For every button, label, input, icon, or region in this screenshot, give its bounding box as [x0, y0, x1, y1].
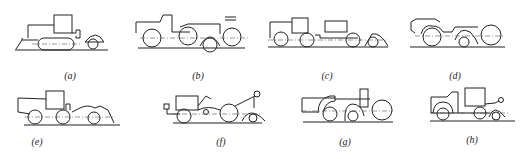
middle-wheel	[459, 37, 469, 47]
tractor-hood	[270, 22, 292, 38]
trailer-box	[325, 21, 347, 32]
panel-label-g: (g)	[339, 136, 351, 148]
rear-wheel	[249, 114, 257, 122]
front-tool	[164, 104, 169, 109]
tractor-front-wheel	[274, 32, 288, 46]
tractor-cab-outline	[136, 15, 190, 33]
panel-label-e: (e)	[31, 136, 43, 148]
panel-label-b: (b)	[192, 70, 204, 82]
trailer-bed	[315, 35, 358, 38]
rear-fender	[85, 35, 104, 42]
exhaust	[66, 104, 70, 110]
cab	[54, 15, 72, 33]
hitch-arm	[198, 96, 211, 106]
panel-b: (b)	[136, 15, 248, 82]
lower-hood	[18, 112, 30, 114]
panel-g: (g)	[302, 89, 393, 148]
panel-d: (d)	[410, 19, 505, 82]
rear-wheel	[223, 28, 241, 46]
middle-wheel	[220, 104, 238, 122]
tractor-cab	[292, 18, 308, 33]
rear-unit-wheel	[368, 37, 378, 47]
middle-fender	[455, 30, 478, 44]
tow-hitch	[499, 98, 504, 103]
crane-boom	[235, 96, 255, 106]
cab	[360, 89, 368, 107]
panel-f: (f)	[164, 91, 265, 148]
front-wheel	[323, 107, 337, 121]
panel-label-f: (f)	[216, 136, 226, 148]
vehicle-layout-figure: (a) (b) (c)	[0, 0, 523, 159]
box-body	[465, 88, 485, 106]
panel-c: (c)	[268, 18, 388, 82]
front-wheel	[423, 28, 441, 46]
tow-bar	[485, 101, 499, 104]
trailer-link	[198, 108, 220, 111]
tractor-body	[176, 96, 198, 110]
middle-wheel	[348, 111, 358, 121]
tractor-rear-wheel	[179, 27, 197, 45]
hood-outline	[28, 25, 54, 38]
panel-a: (a)	[15, 15, 108, 82]
panel-h: (h)	[430, 88, 515, 146]
rear-drum	[88, 112, 100, 124]
rear-wheel	[481, 25, 501, 45]
crane-pulley	[254, 91, 260, 97]
tractor-wheel	[177, 109, 191, 123]
rear-drum-housing	[72, 106, 114, 123]
towed-fender	[489, 110, 505, 117]
panel-e: (e)	[18, 91, 120, 148]
front-fender	[318, 96, 335, 113]
panel-label-a: (a)	[64, 70, 76, 82]
middle-wheel	[203, 38, 217, 52]
rear-wheel	[88, 39, 98, 49]
panel-label-d: (d)	[449, 70, 461, 82]
cab	[46, 91, 64, 109]
front-blade	[16, 40, 38, 49]
panel-label-c: (c)	[321, 70, 333, 82]
hood-outline	[18, 98, 46, 112]
rear-wheel	[372, 100, 392, 120]
panel-label-h: (h)	[466, 134, 478, 146]
hitch	[72, 30, 80, 38]
front-wheel	[437, 108, 449, 120]
